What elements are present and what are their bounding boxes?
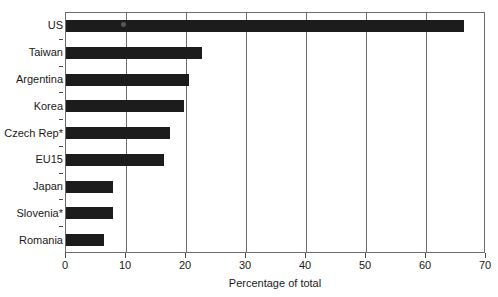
bar-row [66, 200, 484, 227]
bar-eu15 [66, 154, 164, 166]
y-axis-tick [59, 119, 63, 120]
bar-row [66, 93, 484, 120]
y-axis-tick [59, 92, 63, 93]
bar-korea [66, 100, 184, 112]
scan-artifact-speck [121, 22, 126, 27]
x-axis-tick-label-0: 0 [45, 259, 85, 272]
plot-area [65, 12, 485, 253]
x-axis-ticks [65, 253, 485, 258]
y-axis-label-romania: Romania [0, 234, 63, 246]
bar-slovenia [66, 207, 113, 219]
y-axis-label-korea: Korea [0, 100, 63, 112]
x-axis-tick-30 [245, 253, 246, 258]
y-axis-tick [59, 226, 63, 227]
x-axis-tick-10 [125, 253, 126, 258]
y-axis-label-taiwan: Taiwan [0, 46, 63, 58]
x-axis-tick-50 [365, 253, 366, 258]
x-axis-tick-0 [65, 253, 66, 258]
bar-row [66, 120, 484, 147]
bar-romania [66, 234, 104, 246]
bar-row [66, 147, 484, 174]
y-axis-label-eu15: EU15 [0, 153, 63, 165]
y-axis-tick [59, 173, 63, 174]
bar-taiwan [66, 47, 202, 59]
y-axis-label-slovenia: Slovenia* [0, 207, 63, 219]
x-axis-title: Percentage of total [65, 277, 485, 290]
y-axis-label-japan: Japan [0, 180, 63, 192]
bar-row [66, 227, 484, 254]
bars-layer [66, 13, 484, 252]
bar-row [66, 67, 484, 94]
bar-row [66, 174, 484, 201]
y-axis-category-labels: USTaiwanArgentinaKoreaCzech Rep*EU15Japa… [0, 12, 63, 253]
y-axis-tick [59, 66, 63, 67]
bar-japan [66, 181, 113, 193]
x-axis-tick-label-50: 50 [345, 259, 385, 272]
bar-row [66, 40, 484, 67]
bar-czechrep [66, 127, 170, 139]
y-axis-tick [59, 39, 63, 40]
x-axis-tick-70 [485, 253, 486, 258]
x-axis-tick-label-30: 30 [225, 259, 265, 272]
x-axis-tick-label-40: 40 [285, 259, 325, 272]
y-axis-label-czechrep: Czech Rep* [0, 127, 63, 139]
bar-chart: USTaiwanArgentinaKoreaCzech Rep*EU15Japa… [0, 0, 498, 297]
x-axis-tick-60 [425, 253, 426, 258]
x-axis-tick-labels: 010203040506070 [0, 259, 498, 273]
bar-us [66, 20, 464, 32]
x-axis-tick-20 [185, 253, 186, 258]
x-axis-tick-label-70: 70 [465, 259, 498, 272]
y-axis-label-us: US [0, 19, 63, 31]
bar-argentina [66, 74, 189, 86]
x-axis-tick-40 [305, 253, 306, 258]
bar-row [66, 13, 484, 40]
y-axis-label-argentina: Argentina [0, 73, 63, 85]
x-axis-tick-label-20: 20 [165, 259, 205, 272]
y-axis-tick [59, 199, 63, 200]
x-axis-tick-label-60: 60 [405, 259, 445, 272]
y-axis-tick [59, 146, 63, 147]
x-axis-tick-label-10: 10 [105, 259, 145, 272]
